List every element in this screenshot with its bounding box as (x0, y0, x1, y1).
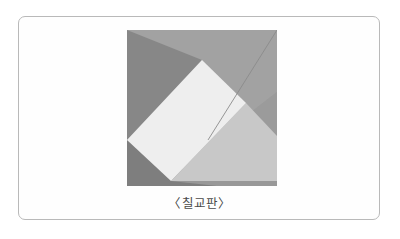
figure-panel: 〈칠교판〉 (18, 16, 380, 220)
tangram-svg (127, 30, 277, 186)
figure-caption: 〈칠교판〉 (19, 193, 381, 212)
page-root: 〈칠교판〉 (0, 0, 400, 239)
tangram-figure (127, 30, 277, 186)
